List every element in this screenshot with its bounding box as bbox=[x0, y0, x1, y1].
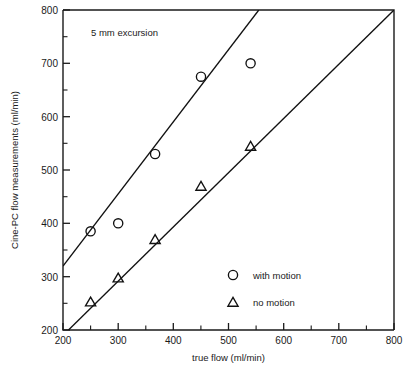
y-axis-title: Cine-PC flow measurements (ml/min) bbox=[9, 91, 20, 249]
y-tick-label: 800 bbox=[41, 5, 58, 16]
x-tick-label: 400 bbox=[165, 335, 182, 346]
y-tick-label: 300 bbox=[41, 272, 58, 283]
legend-label-no-motion: no motion bbox=[253, 297, 295, 308]
legend-label-with-motion: with motion bbox=[252, 270, 301, 281]
x-tick-label: 800 bbox=[386, 335, 403, 346]
y-tick-label: 400 bbox=[41, 218, 58, 229]
x-tick-label: 200 bbox=[55, 335, 72, 346]
x-axis-title: true flow (ml/min) bbox=[192, 352, 265, 363]
y-tick-label: 600 bbox=[41, 112, 58, 123]
excursion-annotation: 5 mm excursion bbox=[91, 27, 158, 38]
y-tick-label: 700 bbox=[41, 58, 58, 69]
y-tick-label: 500 bbox=[41, 165, 58, 176]
flow-comparison-chart: 200 300 400 500 600 700 800 200 300 400 … bbox=[0, 0, 413, 377]
x-tick-label: 700 bbox=[330, 335, 347, 346]
x-tick-label: 600 bbox=[275, 335, 292, 346]
x-tick-label: 500 bbox=[220, 335, 237, 346]
x-tick-label: 300 bbox=[110, 335, 127, 346]
chart-background bbox=[0, 0, 413, 377]
